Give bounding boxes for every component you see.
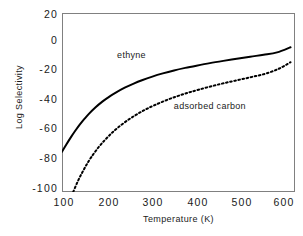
- y-tick-label-20: 20: [14, 8, 58, 20]
- x-axis-label: Temperature (K): [62, 214, 295, 224]
- y-tick-label-m20: -20: [14, 63, 58, 75]
- series-annotation-adsorbed-carbon: adsorbed carbon: [174, 101, 246, 111]
- y-tick-label-m60: -60: [14, 122, 58, 134]
- y-tick-label-m40: -40: [14, 93, 58, 105]
- y-tick-label-m100: -100: [14, 182, 58, 194]
- y-tick-label-m80: -80: [14, 152, 58, 164]
- chart-figure: Log Selectivity 20 0 -20 -40 -60 -80 -10…: [0, 0, 303, 236]
- x-tick-label-600: 600: [264, 196, 303, 208]
- x-tick-label-400: 400: [178, 196, 218, 208]
- series-annotation-ethyne: ethyne: [117, 50, 146, 60]
- plot-area: ethyne adsorbed carbon: [62, 13, 295, 192]
- y-tick-label-0: 0: [14, 34, 58, 46]
- x-tick-label-500: 500: [222, 196, 262, 208]
- x-tick-label-100: 100: [44, 196, 84, 208]
- x-tick-label-300: 300: [133, 196, 173, 208]
- x-tick-label-200: 200: [89, 196, 129, 208]
